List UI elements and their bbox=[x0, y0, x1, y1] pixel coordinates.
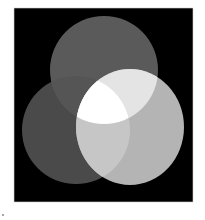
venn-diagram bbox=[0, 0, 205, 220]
stray-mark bbox=[2, 214, 4, 216]
